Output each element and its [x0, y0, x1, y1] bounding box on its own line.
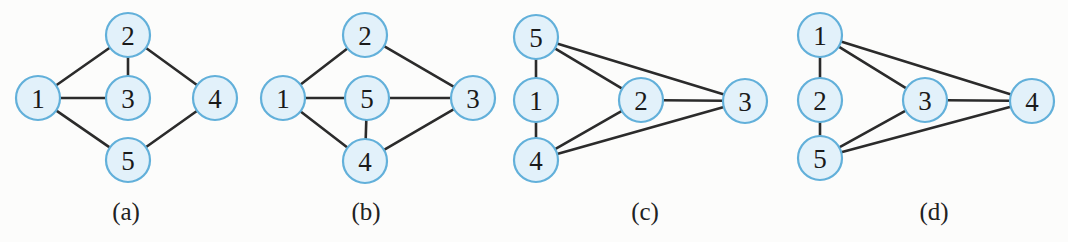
node-label-5: 5	[813, 144, 827, 174]
graph-node-2[interactable]: 2	[619, 78, 663, 122]
graph-node-1[interactable]: 1	[798, 13, 842, 57]
graph-node-5[interactable]: 5	[514, 15, 558, 59]
graph-panel-a: 12345(a)	[16, 13, 237, 226]
graph-figure: 12345(a)12534(b)51423(c)12534(d)	[0, 0, 1068, 242]
graph-edge-4-3	[383, 109, 455, 151]
graph-panel-c: 51423(c)	[514, 15, 767, 226]
graph-node-5[interactable]: 5	[798, 136, 842, 180]
node-layer: 12534	[798, 13, 1054, 180]
node-label-1: 1	[276, 84, 290, 114]
graph-edge-5-3	[838, 110, 906, 148]
graph-edge-1-4	[300, 111, 349, 148]
panel-caption: (d)	[919, 198, 948, 226]
node-label-1: 1	[813, 21, 827, 51]
graph-node-5[interactable]: 5	[345, 76, 389, 120]
node-label-4: 4	[529, 146, 543, 176]
node-label-2: 2	[634, 86, 648, 116]
node-label-2: 2	[813, 86, 827, 116]
graph-node-2[interactable]: 2	[798, 78, 842, 122]
graph-node-2[interactable]: 2	[106, 13, 150, 57]
graph-node-1[interactable]: 1	[16, 76, 60, 120]
panel-caption: (a)	[112, 198, 140, 226]
graph-node-3[interactable]: 3	[903, 78, 947, 122]
node-label-4: 4	[1025, 87, 1039, 117]
node-label-4: 4	[358, 147, 372, 177]
panel-caption: (c)	[631, 198, 659, 226]
node-layer: 12534	[261, 13, 495, 183]
graph-edge-4-5	[145, 110, 198, 148]
graph-edge-4-2	[554, 110, 623, 149]
graph-panel-b: 12534(b)	[261, 13, 495, 226]
graph-edge-5-4	[366, 119, 367, 140]
node-label-2: 2	[358, 21, 372, 51]
graph-edge-1-2	[300, 48, 349, 85]
graph-node-4[interactable]: 4	[343, 139, 387, 183]
node-label-2: 2	[121, 21, 135, 51]
node-label-5: 5	[121, 146, 135, 176]
graph-edge-2-4	[145, 47, 198, 85]
node-label-3: 3	[466, 84, 480, 114]
graph-node-3[interactable]: 3	[106, 76, 150, 120]
graph-edge-1-5	[55, 110, 110, 148]
node-label-1: 1	[31, 84, 45, 114]
graph-edge-2-3	[383, 46, 455, 88]
graph-edge-2-3	[662, 100, 724, 101]
graph-edge-1-2	[55, 47, 111, 86]
node-label-4: 4	[208, 84, 222, 114]
panel-caption: (b)	[351, 198, 380, 226]
node-label-3: 3	[738, 87, 752, 117]
node-layer: 12345	[16, 13, 237, 182]
node-label-5: 5	[529, 23, 543, 53]
node-label-1: 1	[529, 86, 543, 116]
graph-edge-3-4	[946, 100, 1011, 101]
graph-node-5[interactable]: 5	[106, 138, 150, 182]
graph-node-1[interactable]: 1	[261, 76, 305, 120]
graph-panel-d: 12534(d)	[798, 13, 1054, 226]
node-label-3: 3	[121, 84, 135, 114]
graph-node-1[interactable]: 1	[514, 78, 558, 122]
graph-node-2[interactable]: 2	[343, 13, 387, 57]
graph-node-4[interactable]: 4	[193, 76, 237, 120]
node-label-5: 5	[360, 84, 374, 114]
graph-node-3[interactable]: 3	[451, 76, 495, 120]
node-label-3: 3	[918, 86, 932, 116]
graph-node-3[interactable]: 3	[723, 79, 767, 123]
graph-node-4[interactable]: 4	[514, 138, 558, 182]
graph-node-4[interactable]: 4	[1010, 79, 1054, 123]
graph-canvas: 12345(a)12534(b)51423(c)12534(d)	[0, 0, 1068, 242]
node-layer: 51423	[514, 15, 767, 182]
